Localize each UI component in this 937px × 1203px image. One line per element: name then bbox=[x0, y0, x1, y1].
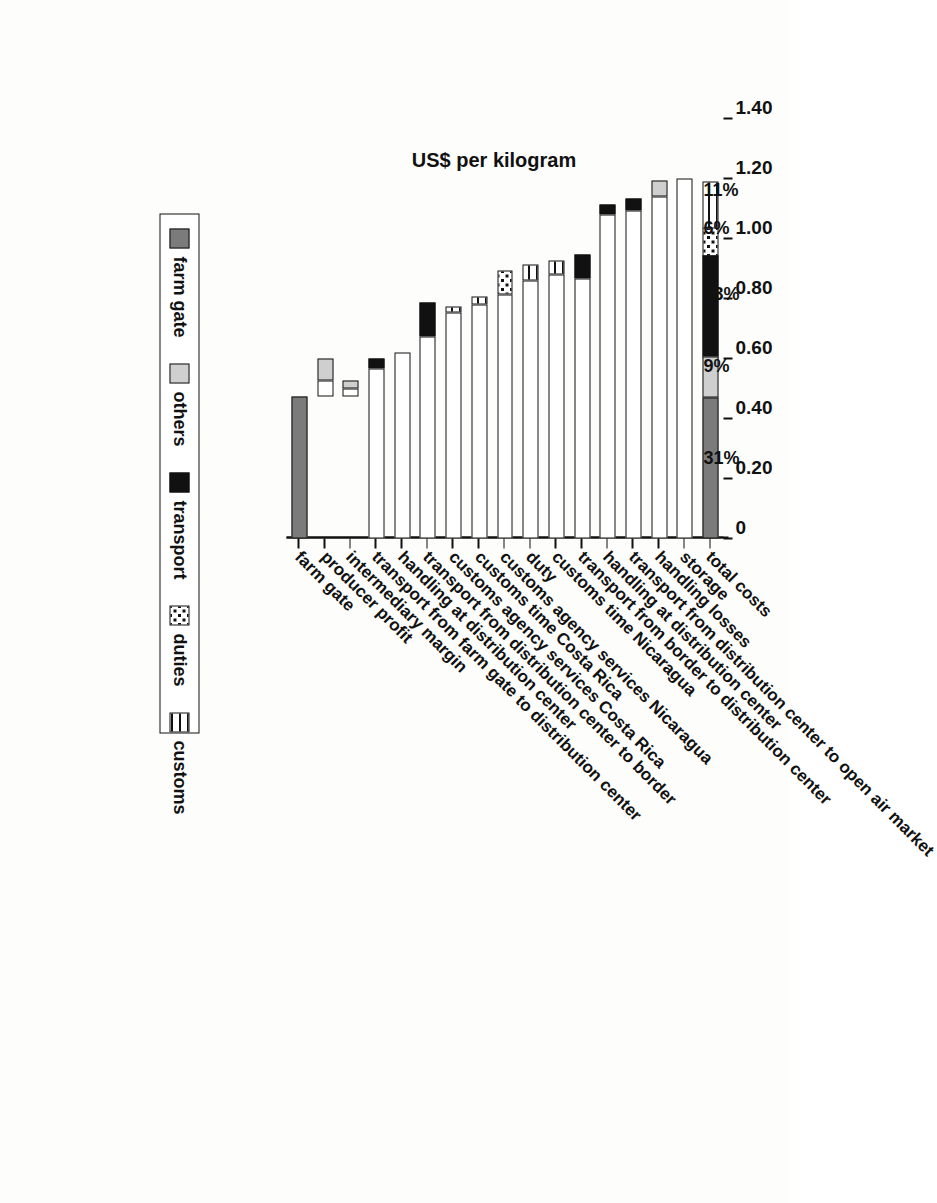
legend-label: duties bbox=[169, 633, 190, 686]
category-label: transport from distribution center to op… bbox=[624, 547, 937, 860]
bar-segment-value bbox=[574, 278, 590, 538]
legend-item-duties[interactable]: duties bbox=[169, 605, 190, 686]
legend-item-customs[interactable]: customs bbox=[169, 712, 190, 814]
bar-segment-customs bbox=[548, 260, 564, 274]
stacked-bar[interactable] bbox=[497, 272, 513, 538]
axis-tick-label: 1.00 bbox=[735, 216, 772, 238]
bar-segment-value bbox=[419, 336, 435, 538]
category-tick bbox=[631, 538, 633, 548]
category-tick bbox=[477, 538, 479, 548]
bar-segment-others bbox=[651, 180, 667, 196]
bar-segment-transport bbox=[625, 198, 641, 210]
bar-segment-value bbox=[342, 388, 358, 396]
legend-label: customs bbox=[169, 740, 190, 814]
bar-segment-transport bbox=[702, 255, 718, 358]
bar-row bbox=[368, 118, 384, 538]
legend-item-transport[interactable]: transport bbox=[169, 472, 190, 579]
legend-swatch-transport-icon bbox=[169, 472, 189, 492]
legend-label: others bbox=[169, 391, 190, 446]
legend-swatch-duties-icon bbox=[169, 605, 189, 625]
legend-swatch-others-icon bbox=[169, 363, 189, 383]
bar-row bbox=[445, 118, 461, 538]
bar-segment-value bbox=[548, 274, 564, 538]
percent-label: 23% bbox=[703, 283, 739, 304]
stacked-bar[interactable] bbox=[676, 178, 692, 538]
category-tick bbox=[606, 538, 608, 548]
category-tick bbox=[323, 538, 325, 548]
bar-segment-customs bbox=[471, 296, 487, 304]
bar-segment-value bbox=[676, 178, 692, 538]
percent-label: 11% bbox=[703, 179, 738, 200]
bar-row bbox=[394, 118, 410, 538]
stacked-bar[interactable] bbox=[651, 182, 667, 538]
bar-segment-value bbox=[394, 352, 410, 538]
bar-row bbox=[471, 118, 487, 538]
bar-segment-farm-gate bbox=[291, 396, 307, 538]
bar-segment-transport bbox=[419, 302, 435, 336]
legend-label: farm gate bbox=[169, 256, 190, 337]
bar-row bbox=[342, 118, 358, 538]
bar-segment-others bbox=[317, 358, 333, 380]
bar-segment-value bbox=[445, 312, 461, 538]
stacked-bar[interactable] bbox=[291, 396, 307, 538]
stacked-bar[interactable] bbox=[317, 360, 333, 396]
axis-tick-label: 0.60 bbox=[735, 336, 772, 358]
category-tick bbox=[452, 538, 454, 548]
axis-tick-label: 0.20 bbox=[735, 456, 772, 478]
bar-segment-transport bbox=[599, 204, 615, 214]
category-tick bbox=[297, 538, 299, 548]
bar-row bbox=[548, 118, 564, 538]
legend-label: transport bbox=[169, 500, 190, 579]
axis-tick bbox=[723, 417, 732, 419]
percent-label: 6% bbox=[703, 217, 729, 238]
category-tick bbox=[709, 538, 711, 548]
bar-row bbox=[625, 118, 641, 538]
bar-segment-value bbox=[471, 304, 487, 538]
bar-segment-value bbox=[599, 214, 615, 538]
stacked-bar[interactable] bbox=[599, 206, 615, 538]
bar-segment-transport bbox=[368, 358, 384, 368]
axis-tick-label: 0.40 bbox=[735, 396, 772, 418]
percent-label: 9% bbox=[703, 355, 729, 376]
axis-tick-label: 0.80 bbox=[735, 276, 772, 298]
bar-segment-others bbox=[342, 380, 358, 388]
axis-tick-label: 0 bbox=[735, 516, 746, 538]
stacked-bar[interactable] bbox=[548, 262, 564, 539]
category-tick bbox=[374, 538, 376, 548]
plot-area: 00.200.400.600.801.001.201.40 US$ per ki… bbox=[286, 118, 723, 538]
bar-row bbox=[599, 118, 615, 538]
category-tick bbox=[580, 538, 582, 548]
stacked-bar[interactable] bbox=[419, 304, 435, 538]
stacked-bar[interactable] bbox=[574, 256, 590, 539]
legend-swatch-customs-icon bbox=[169, 712, 189, 732]
bar-segment-value bbox=[522, 280, 538, 538]
bar-row bbox=[522, 118, 538, 538]
bar-segment-value bbox=[368, 368, 384, 538]
bar-segment-value bbox=[651, 196, 667, 538]
bar-segment-value bbox=[497, 294, 513, 538]
stacked-bar[interactable] bbox=[394, 352, 410, 538]
bar-segment-value bbox=[625, 210, 641, 538]
category-tick bbox=[554, 538, 556, 548]
percent-label: 31% bbox=[703, 447, 739, 468]
stacked-bar[interactable] bbox=[471, 298, 487, 539]
category-tick bbox=[529, 538, 531, 548]
bar-segment-transport bbox=[574, 254, 590, 278]
legend-item-others[interactable]: others bbox=[169, 363, 190, 446]
category-tick bbox=[657, 538, 659, 548]
axis-tick bbox=[723, 117, 732, 119]
category-tick bbox=[426, 538, 428, 548]
stacked-bar[interactable] bbox=[522, 266, 538, 538]
category-tick bbox=[683, 538, 685, 548]
legend-item-farm-gate[interactable]: farm gate bbox=[169, 228, 190, 337]
stacked-bar[interactable] bbox=[445, 308, 461, 538]
category-tick bbox=[503, 538, 505, 548]
bar-row bbox=[419, 118, 435, 538]
stacked-bar[interactable] bbox=[625, 200, 641, 538]
stacked-bar[interactable] bbox=[342, 382, 358, 397]
bar-segment-customs bbox=[522, 264, 538, 280]
stacked-bar[interactable] bbox=[368, 360, 384, 538]
axis-tick-label: 1.20 bbox=[735, 156, 772, 178]
bar-row bbox=[497, 118, 513, 538]
